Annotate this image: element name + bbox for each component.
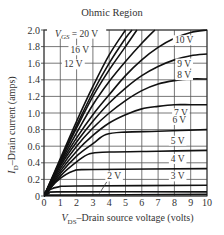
x-tick-label: 2 [74,197,79,208]
y-tick-label: 0.6 [28,141,41,152]
y-tick-label: 1.6 [28,58,41,69]
curve-label: 3 V [171,171,185,181]
x-tick-label: 1 [58,197,63,208]
y-tick-label: 1.2 [28,91,41,102]
x-tick-label: 3 [90,197,95,208]
y-tick-label: 0.8 [28,124,41,135]
y-tick-label: 2.0 [28,25,41,36]
y-tick-label: 1.0 [28,108,41,119]
y-tick-label: 0 [35,191,40,202]
curve-label: 10 V [175,35,194,45]
x-tick-label: 6 [139,197,144,208]
curve-label: 8 V [177,70,191,80]
y-tick-label: 0.4 [28,157,41,168]
x-tick-label: 0 [42,197,47,208]
chart-plot: 01234567891000.20.40.60.81.01.21.41.61.8… [0,0,224,235]
y-axis-label: ID–Drain current (amps) [6,50,20,200]
x-axis-label: VDS–Drain source voltage (volts) [40,212,215,226]
x-tick-label: 5 [123,197,128,208]
x-tick-label: 8 [172,197,177,208]
curve-label: 16 V [71,45,90,55]
curve-label: 6 V [172,115,186,125]
y-tick-label: 1.4 [28,74,41,85]
y-tick-label: 1.8 [28,41,41,52]
curve-label: 4 V [171,154,185,164]
x-tick-label: 4 [107,197,112,208]
curve-label: 2 V [107,171,121,181]
y-tick-label: 0.2 [28,174,41,185]
x-tick-label: 7 [156,197,161,208]
curve-label: 12 V [64,59,83,69]
x-tick-label: 9 [188,197,193,208]
curve-label: 9 V [177,59,191,69]
x-tick-label: 10 [202,197,212,208]
curve-label: 5 V [171,136,185,146]
